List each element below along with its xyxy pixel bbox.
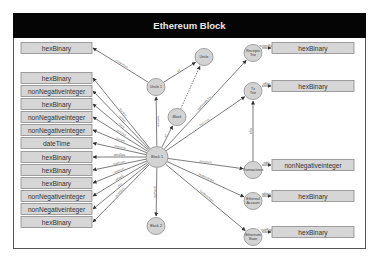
datatype-label: hexBinary: [42, 219, 72, 227]
diagram-canvas: ommerHashhasHashnumbernoncegasUsedgasLim…: [0, 0, 380, 262]
node-block2: Block 2: [147, 217, 165, 234]
node-uncle: Uncle: [195, 48, 213, 65]
node-block1: Block 1: [146, 147, 168, 168]
relation-edge-block1-block2-label: hasParent: [152, 186, 156, 198]
datatype-box: nonNegativeinteger: [21, 86, 92, 97]
node-label: Block: [173, 115, 182, 119]
datatype-label: hexBinary: [42, 180, 72, 188]
property-edge-label: txRoot: [263, 82, 271, 86]
datatype-box: hexBinary: [21, 165, 92, 176]
property-edge-label: index: [263, 161, 270, 165]
datatype-label: hexBinary: [298, 193, 328, 201]
datatype-box: hexBinary: [272, 227, 354, 238]
datatype-label: hexBinary: [42, 75, 72, 83]
datatype-label: nonNegativeinteger: [28, 127, 86, 135]
node-label: Uncle 1: [150, 85, 162, 89]
datatype-label: nonNegativeinteger: [284, 162, 342, 170]
datatype-label: dateTime: [43, 140, 71, 147]
relation-edge-block1-ethereum_state-label: hasWorldState: [199, 189, 215, 203]
datatype-box: hexBinary: [21, 99, 92, 110]
property-edge-label: stateRoot: [261, 228, 272, 232]
node-label: Transactions: [243, 168, 264, 172]
relation-edge-block1-ether_account-label: hasBeneficiary: [198, 172, 216, 183]
node-ethereum-state: EthereumState: [244, 228, 262, 245]
datatype-label: nonNegativeinteger: [28, 206, 86, 214]
datatype-box: nonNegativeinteger: [21, 204, 92, 215]
relation-edge-block1-receipts_trie-label: hasReceiptsTrie: [196, 95, 212, 112]
node-label: Uncle: [199, 55, 208, 59]
datatype-label: hexBinary: [298, 45, 328, 53]
datatype-label: hexBinary: [298, 83, 328, 91]
node-label: Block 1: [151, 155, 163, 159]
relation-edge-block1-transactions-label: containsTx: [199, 159, 213, 165]
datatype-box: hexBinary: [21, 178, 92, 189]
datatype-box: hexBinary: [21, 217, 92, 228]
node-label: Account: [247, 201, 260, 205]
datatype-box: nonNegativeinteger: [21, 112, 92, 123]
property-edge-label: ommerHash: [115, 58, 130, 69]
relation-edge-block1-tx_trie-label: hasTxTrie: [198, 117, 210, 127]
datatype-box: hexBinary: [272, 191, 354, 202]
node-label: Trie: [250, 53, 256, 57]
node-label: Trie: [250, 91, 256, 95]
relation-edge-block1-uncle1-label: hasUncle: [156, 116, 160, 127]
node-label: State: [249, 237, 257, 241]
relation-edge-uncle1-uncle-label: isA: [176, 68, 181, 73]
datatype-label: hexBinary: [42, 154, 72, 162]
datatype-box: hexBinary: [272, 81, 354, 92]
property-edge-label: address: [262, 192, 272, 196]
datatype-label: hexBinary: [42, 167, 72, 175]
datatype-box: hexBinary: [21, 43, 92, 54]
node-uncle1: Uncle 1: [147, 78, 165, 95]
datatype-label: hexBinary: [42, 101, 72, 109]
datatype-label: hexBinary: [42, 45, 72, 53]
datatype-label: hexBinary: [298, 229, 328, 237]
node-ether-account: EtherealAccount: [244, 192, 262, 209]
datatype-box: nonNegativeinteger: [21, 125, 92, 136]
relation-edge-transactions-tx_trie-label: inTrie: [249, 127, 253, 134]
datatype-box: hexBinary: [21, 73, 92, 84]
node-block: Block: [168, 108, 186, 125]
datatype-label: nonNegativeinteger: [28, 114, 86, 122]
datatype-box: dateTime: [21, 138, 92, 149]
node-label: Block 2: [150, 224, 162, 228]
datatype-box: hexBinary: [21, 152, 92, 163]
node-receipts-trie: ReceiptsTrie: [244, 44, 262, 61]
property-edge-label: mixHash: [114, 166, 125, 174]
datatype-box: nonNegativeinteger: [272, 160, 354, 171]
datatype-label: nonNegativeinteger: [28, 88, 86, 96]
node-transactions: Transactions: [243, 161, 264, 178]
node-tx-trie: TxTrie: [244, 82, 262, 99]
datatype-box: nonNegativeinteger: [21, 191, 92, 202]
datatype-label: nonNegativeinteger: [28, 193, 86, 201]
property-edge-label: difficulty: [114, 173, 125, 182]
relation-edge-block1-block-label: isA: [163, 133, 168, 138]
relation-edge-block-uncle: [181, 66, 200, 109]
property-edge-label: extraData: [114, 153, 126, 157]
datatype-box: hexBinary: [272, 43, 354, 54]
